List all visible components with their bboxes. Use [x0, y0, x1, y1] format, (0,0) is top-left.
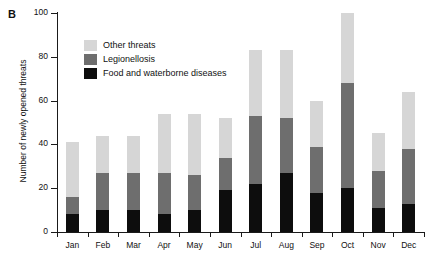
y-axis-tick-label: 0 — [18, 226, 48, 236]
bar-sep — [310, 101, 323, 232]
bar-segment — [310, 147, 323, 193]
bar-jun — [219, 118, 232, 232]
bar-segment — [341, 83, 354, 188]
legend-swatch-other-threats — [84, 40, 97, 51]
legend-item-label: Legionellosis — [103, 54, 155, 65]
x-axis-tick — [363, 232, 364, 237]
bar-segment — [402, 149, 415, 204]
bar-segment — [219, 190, 232, 232]
bar-segment — [188, 175, 201, 210]
panel-label: B — [8, 8, 16, 20]
bar-segment — [158, 114, 171, 173]
legend-item: Legionellosis — [84, 52, 227, 66]
bar-dec — [402, 92, 415, 232]
legend-item-label: Food and waterborne diseases — [103, 68, 227, 79]
bar-may — [188, 114, 201, 232]
y-axis-tick-label: 40 — [18, 138, 48, 148]
x-axis-tick — [393, 232, 394, 237]
x-axis-tick — [118, 232, 119, 237]
bar-segment — [372, 133, 385, 170]
y-axis-tick-label: 100 — [18, 7, 48, 17]
bar-segment — [280, 50, 293, 118]
bar-segment — [310, 101, 323, 147]
bar-mar — [127, 136, 140, 232]
x-axis-tick — [302, 232, 303, 237]
bar-segment — [96, 136, 109, 173]
bar-feb — [96, 136, 109, 232]
bar-segment — [127, 173, 140, 210]
legend-swatch-legionellosis — [84, 54, 97, 65]
bar-oct — [341, 13, 354, 232]
bar-segment — [402, 204, 415, 232]
bar-segment — [158, 173, 171, 215]
bar-segment — [219, 118, 232, 157]
bar-segment — [372, 171, 385, 208]
figure-panel-b: B Number of newly opened threats 0204060… — [0, 0, 443, 277]
y-axis-tick-label: 20 — [18, 182, 48, 192]
bar-segment — [402, 92, 415, 149]
x-axis-tick — [57, 232, 58, 237]
x-axis-tick — [241, 232, 242, 237]
bar-segment — [66, 214, 79, 232]
y-axis-tick-label: 80 — [18, 51, 48, 61]
bar-segment — [341, 13, 354, 83]
x-axis-tick — [424, 232, 425, 237]
x-axis-tick — [88, 232, 89, 237]
bar-jan — [66, 142, 79, 232]
bar-segment — [249, 116, 262, 184]
x-axis-tick — [332, 232, 333, 237]
bar-segment — [66, 197, 79, 215]
x-axis-tick — [149, 232, 150, 237]
bar-segment — [66, 142, 79, 197]
bar-segment — [249, 50, 262, 116]
bar-segment — [158, 214, 171, 232]
bar-segment — [372, 208, 385, 232]
bar-segment — [219, 158, 232, 191]
bar-segment — [280, 118, 293, 173]
bar-aug — [280, 50, 293, 232]
x-axis-tick — [271, 232, 272, 237]
bar-segment — [341, 188, 354, 232]
bar-segment — [96, 210, 109, 232]
legend-swatch-food-waterborne — [84, 68, 97, 79]
legend: Other threatsLegionellosisFood and water… — [84, 38, 227, 80]
bar-segment — [127, 210, 140, 232]
bar-segment — [280, 173, 293, 232]
x-axis-tick — [179, 232, 180, 237]
bar-nov — [372, 133, 385, 232]
bar-segment — [310, 193, 323, 232]
x-axis-tick-label-dec: Dec — [389, 240, 429, 250]
legend-item-label: Other threats — [103, 40, 156, 51]
bar-jul — [249, 50, 262, 232]
y-axis-tick-label: 60 — [18, 95, 48, 105]
bar-segment — [188, 210, 201, 232]
bar-segment — [127, 136, 140, 173]
legend-item: Other threats — [84, 38, 227, 52]
legend-item: Food and waterborne diseases — [84, 66, 227, 80]
x-axis-tick — [210, 232, 211, 237]
bar-segment — [249, 184, 262, 232]
bar-segment — [188, 114, 201, 175]
bar-apr — [158, 114, 171, 232]
bar-segment — [96, 173, 109, 210]
